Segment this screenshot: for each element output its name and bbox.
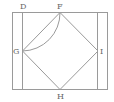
label-i: I: [100, 47, 103, 56]
label-d: D: [20, 2, 26, 11]
geometry-diagram: D F G I H: [0, 0, 114, 102]
label-g: G: [13, 47, 19, 56]
label-f: F: [57, 2, 63, 11]
label-h: H: [57, 92, 64, 101]
square-figh: [23, 13, 99, 90]
